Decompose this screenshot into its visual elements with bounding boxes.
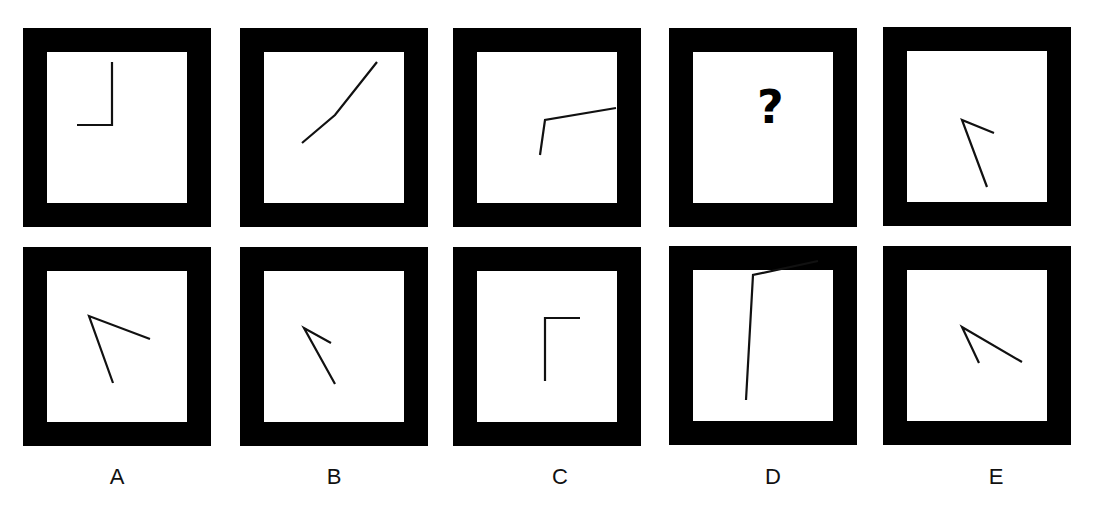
option-label-e: E [902,464,1090,490]
option-label-d: D [679,464,867,490]
option-panel-d[interactable] [669,246,857,445]
question-panel-1 [23,28,211,227]
option-panel-c[interactable] [453,247,641,446]
question-panel-5 [883,27,1071,226]
question-panel-2 [240,28,428,227]
question-panel-missing: ? [669,28,857,227]
question-mark: ? [757,80,784,134]
option-label-b: B [240,464,428,490]
option-panel-e[interactable] [883,246,1071,445]
option-panel-b[interactable] [240,247,428,446]
question-panel-3 [453,28,641,227]
option-panel-a[interactable] [23,247,211,446]
option-label-a: A [23,464,211,490]
option-label-c: C [466,464,654,490]
